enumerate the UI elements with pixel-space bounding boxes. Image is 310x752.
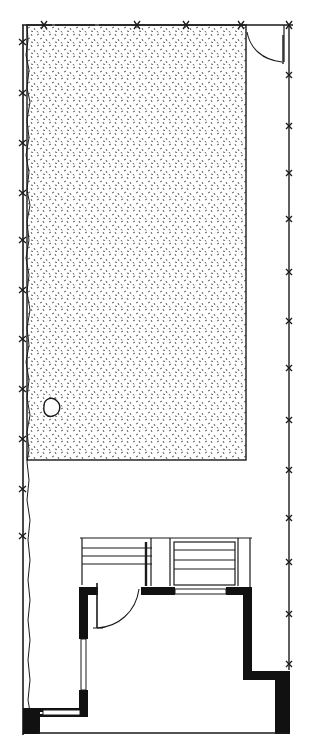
door-swing-arc xyxy=(97,589,139,628)
wall-segment xyxy=(23,708,40,734)
site-plan-drawing xyxy=(0,0,310,752)
window-top xyxy=(175,589,226,594)
gate-swing-arc xyxy=(247,32,282,62)
steps-and-deck xyxy=(80,538,252,590)
window-left xyxy=(81,639,86,690)
wall-segment xyxy=(243,587,252,679)
house-windows xyxy=(43,589,226,715)
wall-segment xyxy=(79,587,88,639)
tree-icon xyxy=(44,398,60,416)
window-bottom xyxy=(43,710,80,715)
entry-door xyxy=(93,583,139,628)
bench-box xyxy=(174,542,235,585)
wall-segment xyxy=(275,671,290,734)
lawn-area xyxy=(27,25,246,460)
wall-segment xyxy=(141,587,175,595)
garden-gate xyxy=(247,32,283,64)
